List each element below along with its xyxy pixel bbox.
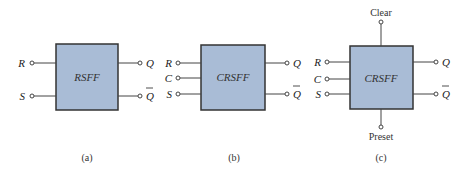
c-terminal [176,76,180,80]
rsff-label: RSFF [73,71,100,83]
qbar-terminal [285,92,289,96]
q-label: Q [442,56,450,68]
c-label: C [314,73,322,85]
clear-terminal [379,20,383,24]
qbar-label: Q [146,90,154,102]
q-label: Q [146,57,154,69]
r-label: R [17,57,25,69]
s-label: S [167,88,173,100]
qbar-label: Q [293,88,301,100]
c-terminal [325,77,329,81]
preset-terminal [379,125,383,129]
clear-label: Clear [370,7,392,18]
r-terminal [325,60,329,64]
q-terminal [138,61,142,65]
qbar-terminal [434,92,438,96]
crsff-label: CRSFF [365,72,398,84]
s-label: S [20,90,26,102]
r-terminal [176,61,180,65]
c-label: C [165,72,173,84]
flipflop-a: RSFF R S Q Q (a) [17,44,154,164]
preset-label: Preset [369,131,394,142]
s-terminal [30,94,34,98]
r-terminal [30,61,34,65]
qbar-label: Q [442,88,450,100]
r-label: R [164,57,172,69]
s-terminal [325,92,329,96]
caption-c: (c) [375,152,386,164]
q-label: Q [293,57,301,69]
caption-b: (b) [228,152,240,164]
r-label: R [313,56,321,68]
crsff-label: CRSFF [217,71,250,83]
qbar-terminal [138,94,142,98]
q-terminal [434,60,438,64]
s-terminal [176,92,180,96]
flipflop-b: CRSFF R C S Q Q (b) [164,45,301,164]
q-terminal [285,61,289,65]
flipflop-c: CRSFF Clear Preset R C S Q Q (c) [313,7,450,164]
s-label: S [316,88,322,100]
caption-a: (a) [81,152,92,164]
